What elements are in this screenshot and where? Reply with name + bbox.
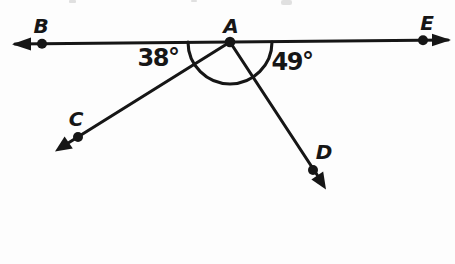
point-A-label: A [221,14,238,38]
geometry-figure: B A E C D 38° 49° [0,0,455,264]
arrowhead-C-icon [55,137,73,152]
angle-DAE-label: 49° [272,48,313,76]
point-E-dot [418,35,428,45]
point-D-label: D [316,140,333,164]
point-C-label: C [69,107,84,131]
angle-arc [188,42,272,84]
angle-BAC-label: 38° [138,44,179,72]
arrowhead-left-icon [12,38,31,51]
scan-artifact [69,0,292,5]
point-D-dot [308,165,318,175]
point-B-label: B [33,14,48,38]
figure-canvas: B A E C D 38° 49° [0,0,455,264]
point-C-dot [73,132,83,142]
point-B-dot [37,39,47,49]
point-E-label: E [420,11,434,35]
point-A-dot [225,37,236,48]
arrowhead-right-icon [432,34,451,46]
